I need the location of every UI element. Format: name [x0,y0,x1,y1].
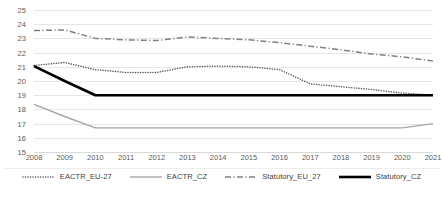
x-axis-labels: 2008200920102011201220132014201520162017… [34,153,433,166]
y-axis-labels: 1516171819202122232425 [0,10,30,152]
y-axis-tick-label: 19 [17,91,26,100]
y-axis-tick-label: 20 [17,77,26,86]
x-axis-tick-label: 2019 [363,153,380,162]
y-axis-tick-label: 25 [17,6,26,15]
legend-label: Statutory_CZ [376,172,421,181]
y-axis-tick-label: 16 [17,133,26,142]
x-axis-tick-label: 2011 [118,153,134,162]
chart-legend: EACTR_EU-27EACTR_CZStatutory_EU_27Statut… [0,172,443,181]
y-axis-tick-label: 23 [17,34,26,43]
legend-item[interactable]: Statutory_CZ [338,172,421,181]
series-line [34,66,433,95]
x-axis-tick-label: 2009 [56,153,73,162]
legend-label: EACTR_CZ [167,172,207,181]
chart-bottom-frame [0,196,443,198]
x-axis-tick-label: 2008 [26,153,43,162]
x-axis-tick-label: 2014 [210,153,227,162]
x-axis-tick-label: 2010 [87,153,104,162]
legend-swatch [224,173,258,181]
series-line [34,30,433,61]
x-axis-tick-label: 2017 [302,153,319,162]
series-line [34,104,433,127]
series-line [34,63,433,96]
y-axis-tick-label: 21 [17,62,26,71]
x-axis-tick-label: 2015 [241,153,258,162]
y-axis-tick-label: 18 [17,105,26,114]
legend-item[interactable]: EACTR_CZ [129,172,207,181]
x-axis-tick-label: 2013 [179,153,196,162]
legend-label: Statutory_EU_27 [262,172,321,181]
legend-label: EACTR_EU-27 [60,172,112,181]
line-chart: 1516171819202122232425 20082009201020112… [0,0,443,198]
x-axis-tick-label: 2018 [333,153,350,162]
y-axis-tick-label: 17 [17,119,26,128]
plot-area [34,10,433,152]
legend-swatch [338,173,372,181]
x-axis-tick-label: 2012 [148,153,165,162]
legend-item[interactable]: EACTR_EU-27 [22,172,112,181]
series-layer [34,10,433,152]
x-axis-tick-label: 2020 [394,153,411,162]
legend-swatch [129,173,163,181]
x-axis-tick-label: 2016 [271,153,288,162]
legend-swatch [22,173,56,181]
legend-separator [3,168,440,169]
y-axis-tick-label: 24 [17,20,26,29]
legend-item[interactable]: Statutory_EU_27 [224,172,321,181]
x-axis-tick-label: 2021 [425,153,442,162]
y-axis-tick-label: 22 [17,48,26,57]
